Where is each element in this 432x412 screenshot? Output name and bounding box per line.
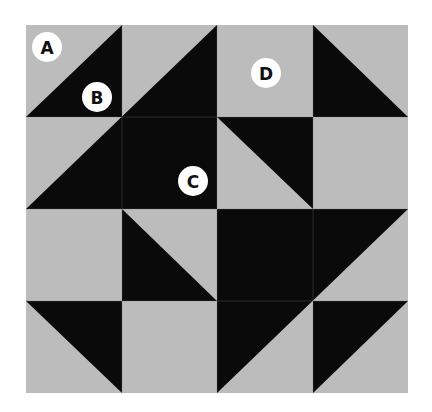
label-d: D	[251, 58, 281, 88]
label-c: C	[178, 166, 208, 196]
label-a: A	[32, 32, 62, 62]
label-b: B	[82, 82, 112, 112]
label-d-text: D	[259, 64, 273, 84]
quilt-block-diagram: A B C D	[0, 0, 432, 412]
label-c-text: C	[187, 172, 199, 192]
label-a-text: A	[40, 38, 54, 58]
label-b-text: B	[91, 88, 104, 108]
